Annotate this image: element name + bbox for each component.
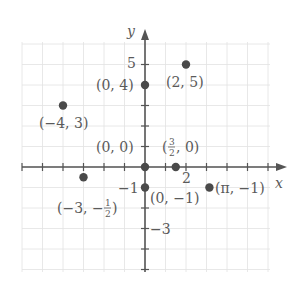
svg-text:1: 1 xyxy=(105,198,111,208)
x-axis-arrow-icon xyxy=(276,163,287,171)
scatter-plot: x y 2 5 −1 −3 (2, 5) (0, 4) (−4, 3) (0, … xyxy=(0,0,298,284)
x-axis-label: x xyxy=(275,175,283,191)
y-axis-arrow-icon xyxy=(141,29,149,40)
tick-label-y-m1: −1 xyxy=(118,180,139,196)
point-label-0-4: (0, 4) xyxy=(96,77,134,93)
svg-text:2: 2 xyxy=(105,209,111,219)
point-label-m3-mhalf: (−3, − 1 2 ) xyxy=(57,198,117,219)
data-point xyxy=(172,163,180,171)
data-point xyxy=(141,183,149,191)
point-label-0-0: (0, 0) xyxy=(96,139,134,155)
grid-lines xyxy=(22,42,270,272)
y-axis-label: y xyxy=(126,23,136,39)
point-label-0-m1: (0, −1) xyxy=(150,190,199,206)
point-label-2-5: (2, 5) xyxy=(166,74,204,90)
data-point xyxy=(141,163,149,171)
svg-text:2: 2 xyxy=(169,148,175,158)
tick-label-x-2: 2 xyxy=(182,170,191,186)
data-point xyxy=(59,101,67,109)
point-label-pi-m1: (π, −1) xyxy=(215,180,265,196)
svg-text:(: ( xyxy=(162,139,167,155)
svg-text:(−3, −: (−3, − xyxy=(57,200,104,216)
data-point xyxy=(182,60,190,68)
svg-text:): ) xyxy=(112,200,117,216)
tick-label-y-m3: −3 xyxy=(150,221,171,237)
data-point xyxy=(79,173,87,181)
tick-label-y-5: 5 xyxy=(127,55,136,71)
data-point xyxy=(205,183,213,191)
svg-text:, 0): , 0) xyxy=(176,139,199,155)
data-point xyxy=(141,81,149,89)
svg-text:3: 3 xyxy=(169,137,175,147)
point-label-m4-3: (−4, 3) xyxy=(39,115,88,131)
point-label-3half-0: ( 3 2 , 0) xyxy=(162,137,199,158)
